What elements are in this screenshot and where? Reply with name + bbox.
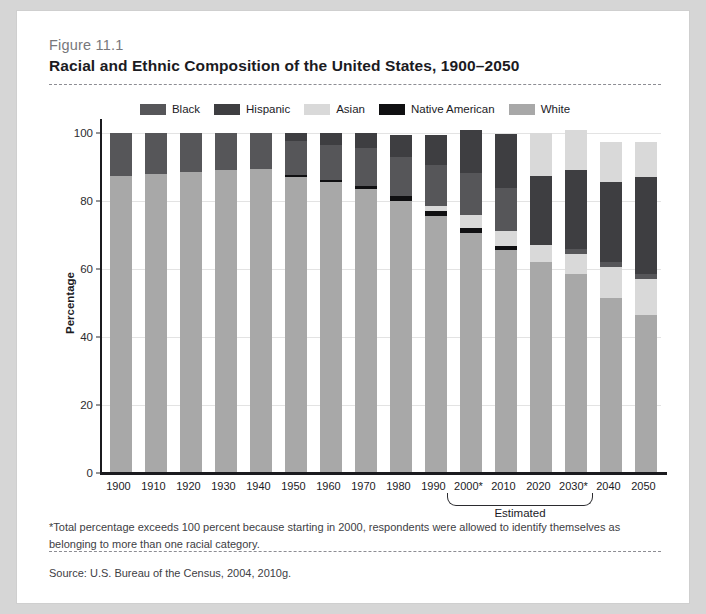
bar-segment-native-american bbox=[355, 186, 377, 189]
bar-segment-asian bbox=[495, 231, 517, 246]
bar-segment-hispanic bbox=[285, 133, 307, 141]
bar-segment-white bbox=[635, 315, 657, 473]
x-axis-tick-label: 1990 bbox=[416, 480, 451, 492]
chart-legend: BlackHispanicAsianNative AmericanWhite bbox=[49, 103, 661, 115]
bar-segment-native-american bbox=[460, 228, 482, 233]
bar-segment-white bbox=[355, 189, 377, 473]
estimated-label: Estimated bbox=[447, 507, 593, 519]
bar-2050 bbox=[635, 133, 657, 473]
bar-2000-est bbox=[460, 133, 482, 473]
bar-segment-asian-top bbox=[530, 133, 552, 176]
bar-segment-native-american bbox=[495, 246, 517, 250]
divider-bottom bbox=[49, 551, 661, 552]
legend-swatch-icon bbox=[214, 104, 240, 115]
legend-item-label: Black bbox=[172, 103, 200, 115]
bar-segment-white bbox=[530, 262, 552, 473]
x-axis-tick-label: 2030* bbox=[556, 480, 591, 492]
x-axis-tick-label: 2000* bbox=[451, 480, 486, 492]
bar-segment-native-american bbox=[390, 196, 412, 201]
figure-number: Figure 11.1 bbox=[49, 37, 123, 53]
bar-1990 bbox=[425, 133, 447, 473]
legend-item-label: Native American bbox=[411, 103, 495, 115]
bar-segment-white bbox=[180, 172, 202, 473]
x-axis-tick-label: 2010 bbox=[486, 480, 521, 492]
bar-segment-hispanic bbox=[600, 182, 622, 262]
bar-1910 bbox=[145, 133, 167, 473]
bar-segment-white bbox=[600, 298, 622, 473]
bar-segment-black bbox=[320, 145, 342, 181]
bar-segment-hispanic bbox=[565, 170, 587, 248]
legend-item-white: White bbox=[509, 103, 570, 115]
bar-segment-asian-top bbox=[565, 130, 587, 171]
y-axis-label: Percentage bbox=[64, 272, 76, 334]
legend-swatch-icon bbox=[509, 104, 535, 115]
bar-segment-white bbox=[320, 182, 342, 473]
bar-segment-white bbox=[145, 174, 167, 473]
bar-1920 bbox=[180, 133, 202, 473]
bar-segment-black bbox=[495, 188, 517, 231]
legend-item-native-american: Native American bbox=[379, 103, 495, 115]
legend-item-label: White bbox=[541, 103, 570, 115]
bar-segment-black bbox=[145, 133, 167, 174]
legend-swatch-icon bbox=[140, 104, 166, 115]
bar-segment-white bbox=[215, 170, 237, 473]
y-axis-tick-label: 20 bbox=[80, 399, 93, 411]
legend-item-black: Black bbox=[140, 103, 200, 115]
x-axis-tick-label: 2050 bbox=[626, 480, 661, 492]
bar-segment-asian bbox=[460, 215, 482, 228]
bar-segment-asian-top bbox=[635, 142, 657, 178]
bar-segment-asian bbox=[425, 206, 447, 211]
bar-1980 bbox=[390, 133, 412, 473]
x-axis-tick-label: 1920 bbox=[171, 480, 206, 492]
bar-segment-black bbox=[565, 249, 587, 254]
bar-2020 bbox=[530, 133, 552, 473]
bar-segment-native-american bbox=[425, 211, 447, 216]
bar-2040 bbox=[600, 133, 622, 473]
y-axis-tick-label: 0 bbox=[87, 467, 93, 479]
bar-segment-hispanic bbox=[495, 134, 517, 188]
bar-segment-native-american bbox=[285, 175, 307, 177]
figure-card: Figure 11.1 Racial and Ethnic Compositio… bbox=[16, 10, 690, 604]
bar-segment-black bbox=[635, 274, 657, 279]
legend-swatch-icon bbox=[379, 104, 405, 115]
bar-segment-white bbox=[110, 176, 132, 474]
bar-segment-asian bbox=[635, 279, 657, 315]
bar-2030-est bbox=[565, 133, 587, 473]
bar-segment-hispanic bbox=[460, 130, 482, 173]
bar-segment-hispanic bbox=[320, 133, 342, 145]
x-axis-tick-label: 1900 bbox=[101, 480, 136, 492]
bar-segment-black bbox=[460, 173, 482, 216]
bar-segment-black bbox=[355, 148, 377, 185]
x-axis-tick-label: 1960 bbox=[311, 480, 346, 492]
legend-swatch-icon bbox=[304, 104, 330, 115]
legend-item-hispanic: Hispanic bbox=[214, 103, 290, 115]
bar-segment-black bbox=[110, 133, 132, 176]
bar-segment-hispanic bbox=[390, 135, 412, 157]
bar-1950 bbox=[285, 133, 307, 473]
x-axis-tick-label: 2040 bbox=[591, 480, 626, 492]
bar-1940 bbox=[250, 133, 272, 473]
bar-1930 bbox=[215, 133, 237, 473]
x-axis-tick-label: 2020 bbox=[521, 480, 556, 492]
bar-segment-black bbox=[250, 133, 272, 169]
figure-title: Racial and Ethnic Composition of the Uni… bbox=[49, 57, 519, 75]
chart-plot-area: 020406080100 190019101920193019401950196… bbox=[101, 133, 661, 473]
bar-segment-asian bbox=[530, 245, 552, 262]
x-axis-tick-label: 1980 bbox=[381, 480, 416, 492]
bar-segment-white bbox=[285, 177, 307, 473]
x-axis-tick-label: 1910 bbox=[136, 480, 171, 492]
y-axis-tick-label: 60 bbox=[80, 263, 93, 275]
bar-segment-black bbox=[180, 133, 202, 172]
bar-2010 bbox=[495, 133, 517, 473]
bar-segment-black bbox=[425, 165, 447, 206]
bar-segment-asian bbox=[600, 267, 622, 298]
bar-segment-white bbox=[495, 250, 517, 473]
legend-item-label: Asian bbox=[336, 103, 365, 115]
bar-1900 bbox=[110, 133, 132, 473]
y-axis-line bbox=[100, 119, 102, 473]
y-axis-tick-label: 100 bbox=[74, 127, 93, 139]
bar-segment-white bbox=[565, 274, 587, 473]
y-axis-tick-label: 40 bbox=[80, 331, 93, 343]
bar-segment-white bbox=[460, 233, 482, 473]
figure-source: Source: U.S. Bureau of the Census, 2004,… bbox=[49, 567, 291, 579]
